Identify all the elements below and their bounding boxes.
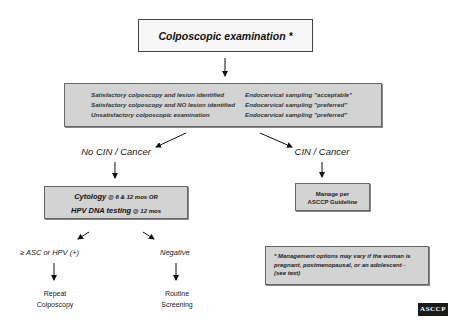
hpv-schedule: @ 12 mos bbox=[131, 208, 161, 214]
sampling-item: Endocervical sampling "preferred" bbox=[245, 110, 352, 120]
outcome-line: Screening bbox=[152, 299, 202, 310]
start-label: Colposcopic examination * bbox=[139, 20, 312, 52]
cytology-line: Cytology @ 6 & 12 mos OR bbox=[45, 190, 187, 204]
note-line: pregnant, postmenopausal, or an adolesce… bbox=[274, 261, 422, 270]
sampling-item: Endocervical sampling "acceptable" bbox=[245, 90, 352, 100]
no-cin-label: No CIN / Cancer bbox=[70, 146, 162, 157]
arrow-to-no-cin bbox=[156, 133, 186, 147]
hpv-term: HPV DNA testing bbox=[71, 206, 131, 215]
cytology-schedule: @ 6 & 12 mos OR bbox=[106, 194, 158, 200]
condition-item: Satisfactory colposcopy and lesion ident… bbox=[91, 90, 235, 100]
manage-line-1: Manage per bbox=[296, 190, 369, 198]
outcome-line: Routine bbox=[152, 288, 202, 299]
sampling-item: Endocervical sampling "preferred" bbox=[245, 100, 352, 110]
outcome-line: Colposcopy bbox=[30, 299, 80, 310]
manage-line-2: ASCCP Guideline bbox=[296, 198, 369, 206]
followup-testing-node: Cytology @ 6 & 12 mos OR HPV DNA testing… bbox=[44, 186, 188, 219]
cytology-term: Cytology bbox=[74, 192, 106, 201]
note-line: * Management options may vary if the wom… bbox=[274, 252, 422, 261]
condition-item: Satisfactory colposcopy and NO lesion id… bbox=[91, 100, 235, 110]
repeat-colposcopy-outcome: Repeat Colposcopy bbox=[30, 288, 80, 310]
hpv-line: HPV DNA testing @ 12 mos bbox=[45, 204, 187, 218]
start-node: Colposcopic examination * bbox=[138, 19, 313, 52]
condition-list: Satisfactory colposcopy and lesion ident… bbox=[91, 90, 235, 120]
asccp-logo: ASCCP bbox=[418, 303, 448, 316]
outcome-line: Repeat bbox=[30, 288, 80, 299]
positive-result-label: ≥ ASC or HPV (+) bbox=[20, 248, 79, 257]
routine-screening-outcome: Routine Screening bbox=[152, 288, 202, 310]
negative-result-label: Negative bbox=[160, 248, 190, 257]
conditions-node: Satisfactory colposcopy and lesion ident… bbox=[64, 83, 382, 127]
sampling-list: Endocervical sampling "acceptable" Endoc… bbox=[245, 90, 352, 120]
note-line: (see text) bbox=[274, 269, 422, 278]
arrow-to-negative bbox=[143, 232, 154, 239]
management-note: * Management options may vary if the wom… bbox=[265, 246, 429, 285]
condition-item: Unsatisfactory colposcopic examination bbox=[91, 110, 235, 120]
arrow-to-cin bbox=[260, 133, 292, 147]
arrow-to-positive bbox=[78, 232, 89, 239]
cin-label: CIN / Cancer bbox=[285, 146, 359, 157]
manage-node: Manage per ASCCP Guideline bbox=[295, 183, 370, 211]
